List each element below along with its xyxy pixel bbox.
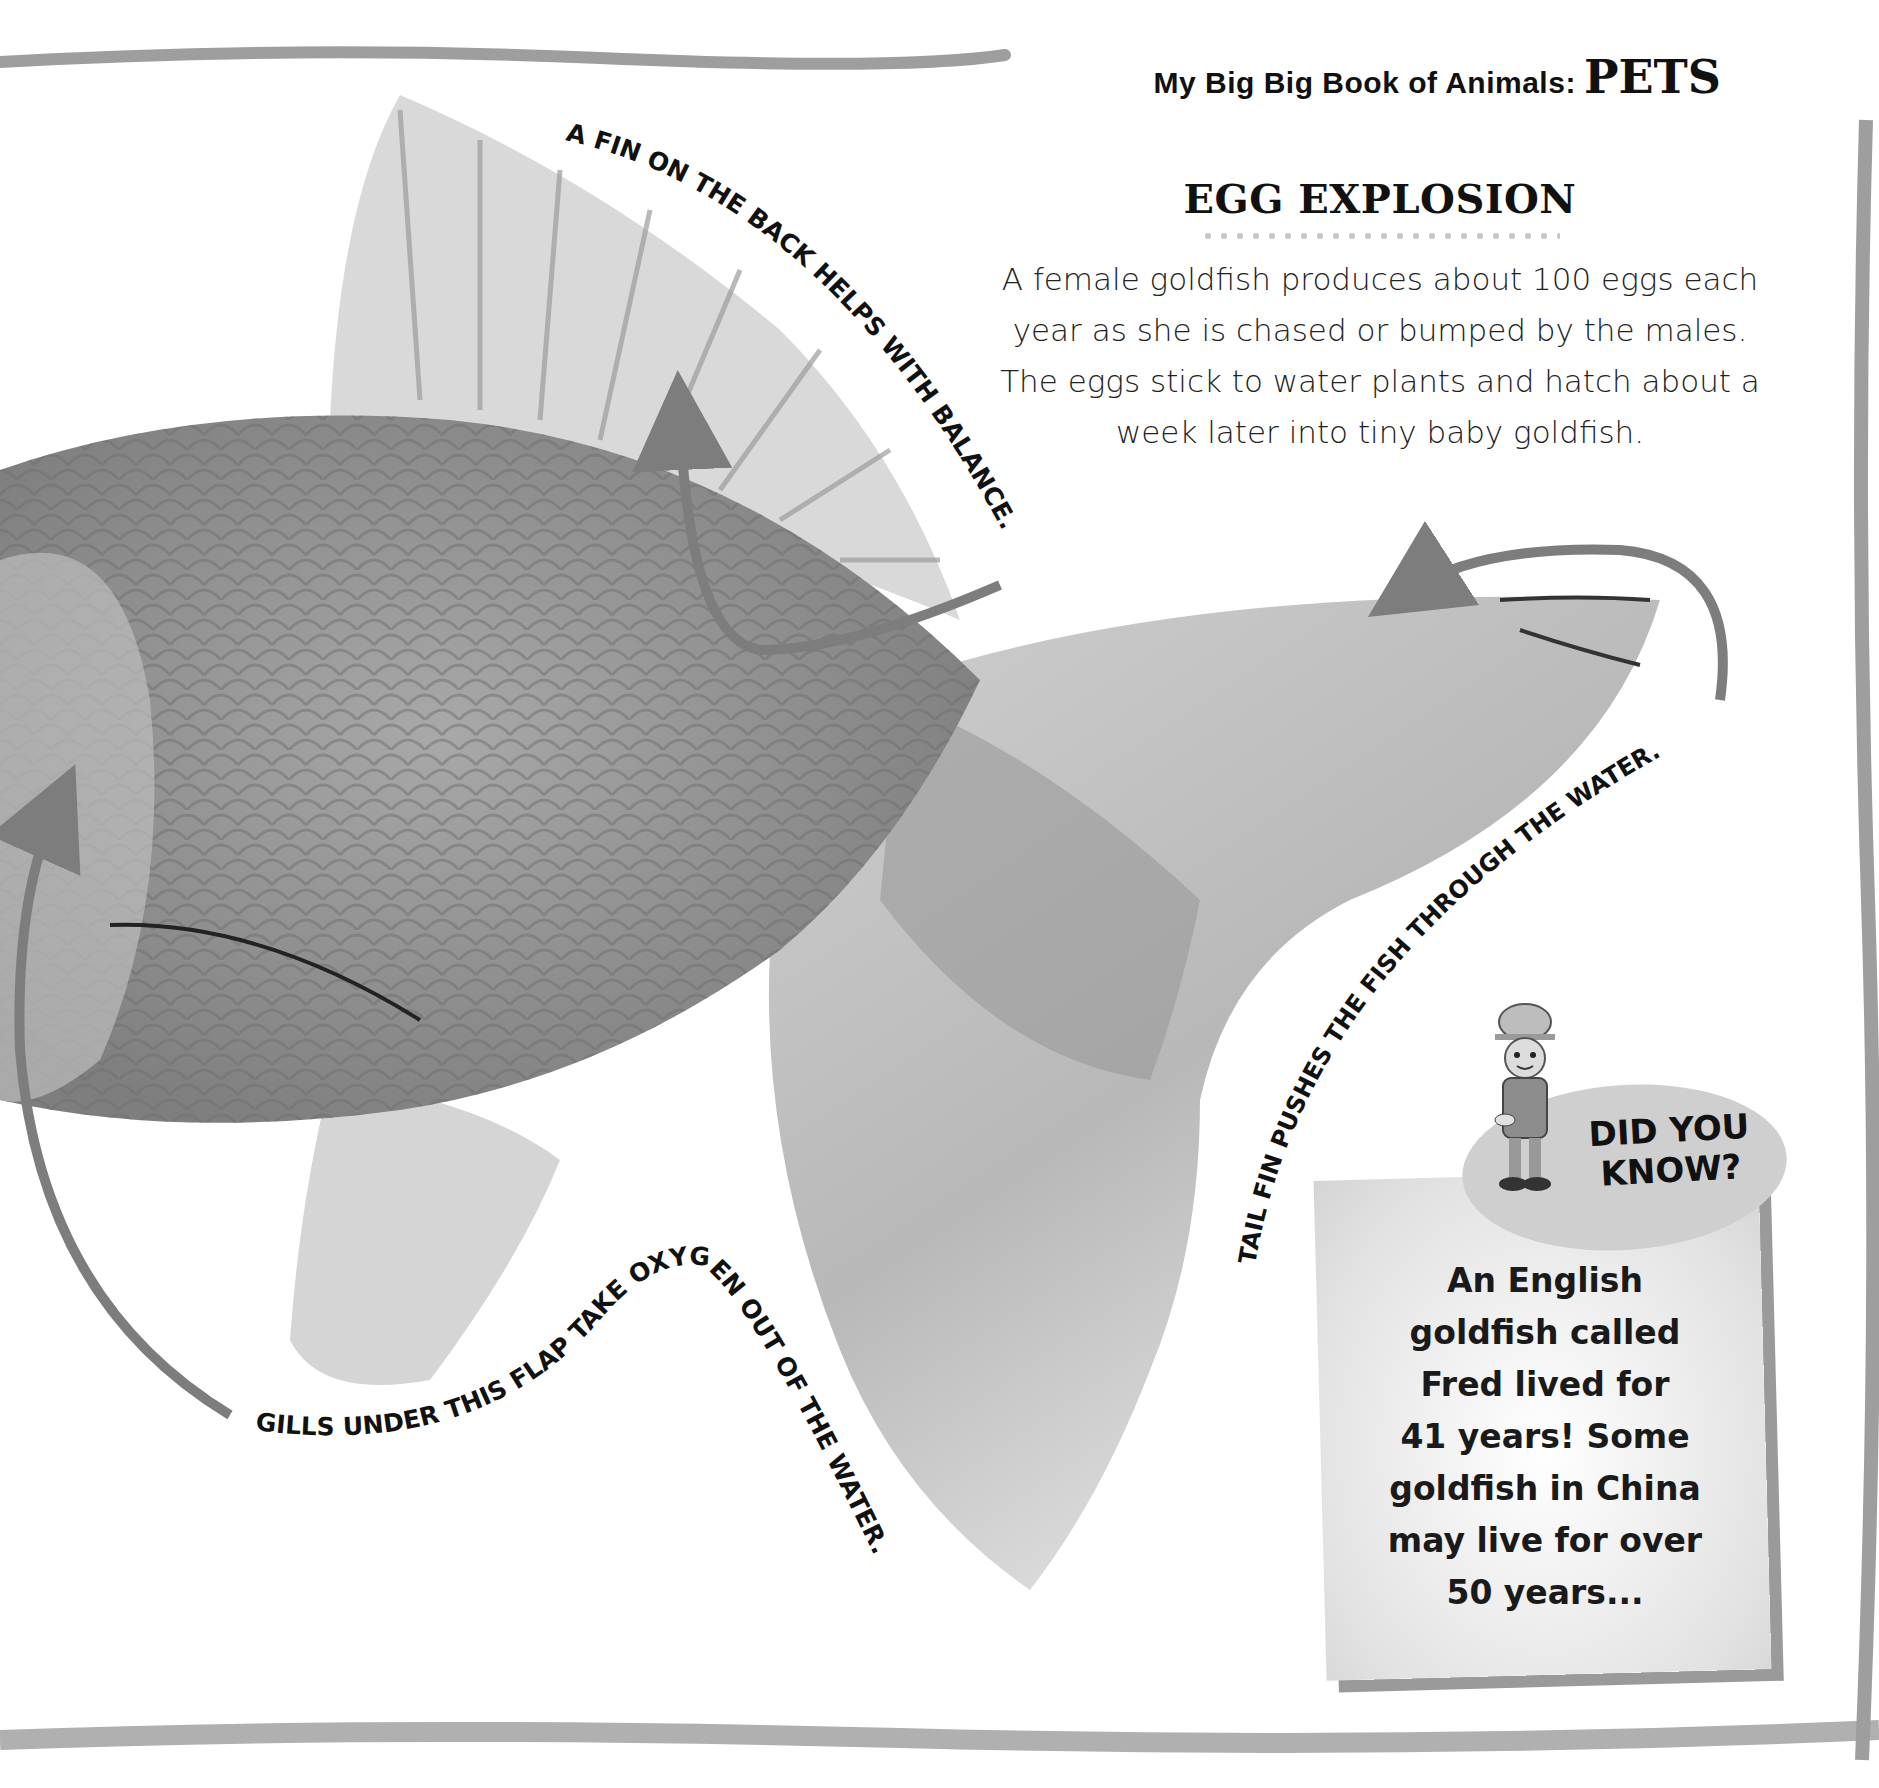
- explorer-mascot-icon: [1475, 1000, 1575, 1200]
- page-header: My Big Big Book of Animals:PETS: [1153, 50, 1721, 104]
- dyk-line-1: An English: [1330, 1255, 1760, 1307]
- egg-explosion-line-4: week later into tiny baby goldfish.: [1000, 407, 1760, 458]
- dyk-line-2: goldfish called: [1330, 1307, 1760, 1359]
- pelvic-fin: [290, 1080, 560, 1385]
- egg-explosion-section: EGG EXPLOSION A female goldfish produces…: [1000, 175, 1760, 458]
- series-title: My Big Big Book of Animals:: [1153, 66, 1575, 99]
- egg-explosion-heading: EGG EXPLOSION: [1000, 175, 1760, 222]
- egg-explosion-line-2: year as she is chased or bumped by the m…: [1000, 305, 1760, 356]
- did-you-know-title: DID YOU KNOW?: [1568, 1105, 1772, 1195]
- dyk-line-5: goldfish in China: [1330, 1463, 1760, 1515]
- egg-explosion-line-1: A female goldfish produces about 100 egg…: [1000, 254, 1760, 305]
- dyk-line-6: may live for over: [1330, 1515, 1760, 1567]
- dyk-line-3: Fred lived for: [1330, 1359, 1760, 1411]
- subject-title: PETS: [1584, 50, 1721, 104]
- dyk-line-7: 50 years...: [1330, 1567, 1760, 1619]
- did-you-know-body: An English goldfish called Fred lived fo…: [1330, 1255, 1760, 1619]
- egg-explosion-line-3: The eggs stick to water plants and hatch…: [1000, 356, 1760, 407]
- dyk-line-4: 41 years! Some: [1330, 1411, 1760, 1463]
- dotted-divider: [1200, 232, 1560, 240]
